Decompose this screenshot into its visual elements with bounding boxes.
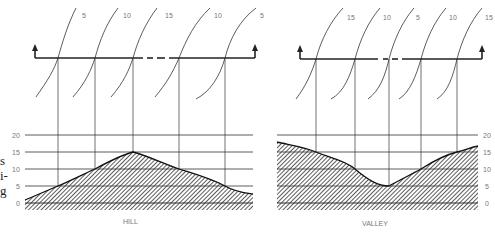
valley-contour-label-3: 5 (416, 14, 420, 21)
side-text-3: g (0, 183, 7, 198)
hill-contour-label-5: 5 (260, 12, 264, 19)
arrow-up-icon (479, 45, 485, 52)
hill-y-tick-0: 0 (16, 200, 20, 207)
valley-contour-label-2: 10 (383, 14, 391, 21)
side-text-1: s (0, 153, 5, 168)
valley-contour-label-1: 15 (347, 14, 355, 21)
hill-profile-fill (25, 152, 253, 210)
valley-contour-label-5: 15 (485, 14, 493, 21)
hill-contour-label-1: 5 (82, 12, 86, 19)
hill-y-tick-15: 15 (12, 149, 20, 156)
hill-y-tick-5: 5 (16, 183, 20, 190)
hill-contour-label-3: 15 (165, 12, 173, 19)
hill-panel: 5 10 15 10 5 (12, 8, 264, 225)
hill-section-line (35, 50, 255, 58)
arrow-up-icon (32, 44, 38, 51)
hill-contour-label-4: 10 (214, 12, 222, 19)
valley-contour-label-4: 10 (449, 14, 457, 21)
valley-y-tick-5: 5 (485, 183, 489, 190)
valley-panel: 15 10 5 10 15 (277, 8, 493, 227)
hill-contour-lines (36, 8, 256, 99)
valley-y-tick-15: 15 (483, 149, 491, 156)
side-text-2: i- (0, 168, 8, 183)
contour-profile-diagram: s i- g 5 10 15 10 5 (0, 0, 495, 232)
valley-y-tick-20: 20 (483, 132, 491, 139)
arrow-up-icon (297, 45, 303, 52)
arrow-up-icon (252, 44, 258, 51)
hill-caption: HILL (123, 218, 138, 225)
valley-y-tick-0: 0 (485, 200, 489, 207)
hill-contour-label-2: 10 (123, 12, 131, 19)
hill-y-tick-20: 20 (12, 132, 20, 139)
valley-y-tick-10: 10 (483, 166, 491, 173)
valley-caption: VALLEY (362, 220, 388, 227)
hill-y-tick-10: 10 (12, 166, 20, 173)
